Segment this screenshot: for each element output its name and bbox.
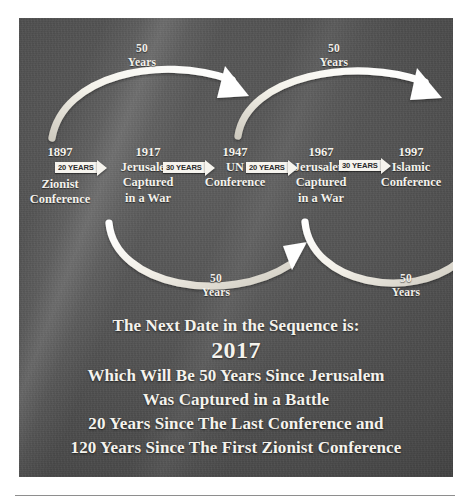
gap-label-box: 30 YEARS xyxy=(163,162,205,173)
conclusion-year: 2017 xyxy=(19,337,453,364)
arc-number: 50 xyxy=(112,41,172,55)
arrow-head-icon xyxy=(381,158,391,174)
arc-number: 50 xyxy=(376,271,436,285)
gap-label: 20 YEARS xyxy=(249,164,285,172)
gap-label: 20 YEARS xyxy=(58,164,94,172)
node-line-2: Captured xyxy=(107,175,189,190)
arc-caption-bottom-left: 50 Years xyxy=(186,271,246,300)
arc-number: 50 xyxy=(186,271,246,285)
gap-label: 30 YEARS xyxy=(342,162,378,170)
conclusion-line-1: Which Will Be 50 Years Since Jerusalem xyxy=(19,364,453,388)
arrow-head-icon xyxy=(205,160,215,176)
gap-arrow-1917-1947: 30 YEARS xyxy=(163,159,215,176)
arc-top-left xyxy=(52,66,249,138)
conclusion-line-3: 20 Years Since The Last Conference and xyxy=(19,412,453,436)
node-line-2: Zionist xyxy=(19,177,101,192)
arrow-head-icon xyxy=(97,160,107,176)
gap-label: 30 YEARS xyxy=(166,164,202,172)
page-divider-rule xyxy=(15,495,455,496)
gap-arrow-1897-1917: 20 YEARS xyxy=(55,159,107,176)
gap-label-box: 30 YEARS xyxy=(339,160,381,171)
gap-arrow-1967-1997: 30 YEARS xyxy=(339,157,391,174)
arc-top-right xyxy=(238,68,442,136)
arc-unit: Years xyxy=(304,55,364,69)
arrow-head-icon xyxy=(288,160,298,176)
node-line-2: Conference xyxy=(194,175,276,190)
arc-caption-bottom-right: 50 Years xyxy=(376,271,436,300)
arc-unit: Years xyxy=(112,55,172,69)
gap-label-box: 20 YEARS xyxy=(246,162,288,173)
conclusion-line-4: 120 Years Since The First Zionist Confer… xyxy=(19,436,453,460)
arc-caption-top-left: 50 Years xyxy=(112,41,172,70)
conclusion-block: The Next Date in the Sequence is: 2017 W… xyxy=(19,315,453,460)
node-line-2: Conference xyxy=(369,175,453,190)
gap-label-box: 20 YEARS xyxy=(55,162,97,173)
conclusion-line-2: Was Captured in a Battle xyxy=(19,388,453,412)
timeline-slide: 50 Years 50 Years 50 Years 50 Years 1897… xyxy=(19,18,453,477)
arc-caption-top-right: 50 Years xyxy=(304,41,364,70)
arc-unit: Years xyxy=(376,285,436,299)
arc-unit: Years xyxy=(186,285,246,299)
screenshot-root: 50 Years 50 Years 50 Years 50 Years 1897… xyxy=(0,0,470,502)
node-line-3: in a War xyxy=(107,191,189,206)
arc-number: 50 xyxy=(304,41,364,55)
node-line-2: Captured xyxy=(280,175,362,190)
gap-arrow-1947-1967: 20 YEARS xyxy=(246,159,298,176)
node-line-3: in a War xyxy=(280,191,362,206)
node-line-3: Conference xyxy=(19,192,101,207)
conclusion-heading: The Next Date in the Sequence is: xyxy=(19,315,453,337)
